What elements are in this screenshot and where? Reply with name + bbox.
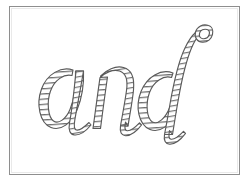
page-canvas: and (0, 0, 249, 189)
letter-d (138, 25, 213, 144)
artwork-frame: and (9, 6, 240, 175)
handwriting-artwork: and (10, 7, 241, 176)
letter-n (93, 67, 142, 136)
word-and-illustration: and (10, 7, 241, 176)
letter-d-ascender (165, 25, 213, 135)
letter-a (39, 69, 91, 135)
